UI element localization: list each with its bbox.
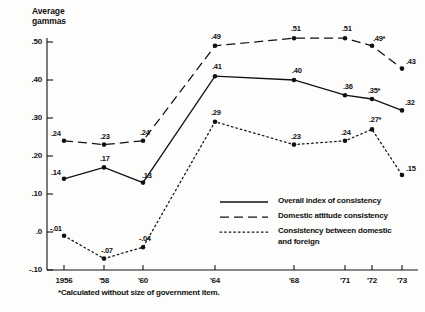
y-tick-label: -.10 [8,265,42,274]
data-point [62,139,67,144]
x-tick-label: 1956 [42,276,86,285]
data-point-label: .51 [342,24,352,33]
data-point-label: .49 [211,32,221,41]
data-point-label: .41 [212,62,222,71]
data-point [292,78,297,83]
series-line-2 [64,122,402,259]
data-point [400,108,405,113]
x-tick-marks [64,265,402,270]
data-point-label: .17 [100,154,110,163]
data-point [343,36,348,41]
data-point [370,97,375,102]
data-point-label: -.07 [101,246,113,255]
data-point-label: .49* [373,34,385,43]
x-tick-label: '73 [380,276,424,285]
data-point [370,127,375,132]
data-point-label: .23 [100,132,110,141]
x-tick-label: '60 [121,276,165,285]
legend-label: Consistency between domestic [278,226,392,237]
data-point [213,74,218,79]
data-point-label: -.01 [50,224,62,233]
data-point [213,44,218,49]
y-tick-label: .40 [8,75,42,84]
series-line-1 [64,38,402,144]
data-point-label: .24 [140,128,150,137]
data-point-label: .43 [406,57,416,66]
y-tick-label: .0 [8,227,42,236]
y-tick-label: .30 [8,113,42,122]
data-point [400,173,405,178]
data-point-label: .15 [406,164,416,173]
data-point-label: .23 [291,132,301,141]
data-point [102,256,107,261]
footnote: *Calculated without size of government i… [58,288,219,297]
data-point [292,142,297,147]
x-tick-label: '68 [272,276,316,285]
legend-label: Domestic attitude consistency [278,211,388,222]
legend-swatches [220,202,268,232]
data-point-label: .24 [341,128,351,137]
data-point [370,44,375,49]
data-point-label: .51 [291,24,301,33]
data-point [62,177,67,182]
data-point-label: .14 [51,168,61,177]
data-point-label: .40 [292,66,302,75]
legend-label: Overall index of consistency [278,196,381,207]
chart-container: Average gammas .50.40.30.20.10.0-.10 195… [0,0,425,312]
data-point [102,165,107,170]
data-point [141,139,146,144]
y-tick-label: .10 [8,189,42,198]
data-point-label: .35* [368,86,380,95]
data-point [62,234,67,239]
data-point-label: .32 [405,98,415,107]
data-point [400,66,405,71]
y-tick-marks [47,42,53,270]
y-tick-label: .20 [8,151,42,160]
data-point [102,142,107,147]
data-point-label: .13 [142,171,152,180]
data-point [141,180,146,185]
legend-label-continued: and foreign [278,237,319,248]
data-point [141,245,146,250]
data-point-label: .36 [343,82,353,91]
data-point [213,120,218,125]
plot-area [0,0,425,312]
data-point [343,93,348,98]
data-point-label: .24 [51,129,61,138]
data-point-label: -.04 [139,234,151,243]
y-tick-label: .50 [8,37,42,46]
data-point [292,36,297,41]
x-tick-label: '58 [82,276,126,285]
data-point [343,139,348,144]
series-line-0 [64,76,402,182]
data-point-label: .27* [369,115,381,124]
data-point-label: .29 [211,108,221,117]
x-tick-label: '64 [193,276,237,285]
